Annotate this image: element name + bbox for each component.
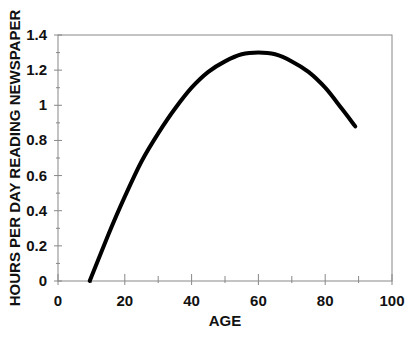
y-axis-tick-labels: 00.20.40.60.811.21.4: [26, 26, 48, 289]
y-tick-label: 1.4: [26, 26, 48, 43]
x-tick-label: 60: [250, 292, 267, 309]
plot-area: [58, 35, 392, 281]
y-tick-label: 0.4: [26, 202, 48, 219]
x-tick-label: 80: [317, 292, 334, 309]
x-axis-tick-labels: 020406080100: [54, 292, 405, 309]
y-tick-label: 1.2: [26, 61, 47, 78]
chart: 020406080100 00.20.40.60.811.21.4 AGE HO…: [0, 0, 410, 345]
x-tick-label: 0: [54, 292, 62, 309]
y-tick-label: 0.8: [26, 131, 47, 148]
y-tick-label: 0.6: [26, 167, 47, 184]
x-tick-label: 40: [183, 292, 200, 309]
y-axis-title: HOURS PER DAY READING NEWSPAPER: [6, 10, 23, 307]
y-tick-label: 0.2: [26, 237, 47, 254]
x-axis-title: AGE: [209, 312, 242, 329]
x-tick-label: 20: [116, 292, 133, 309]
x-tick-label: 100: [379, 292, 404, 309]
y-tick-label: 1: [39, 96, 47, 113]
y-tick-label: 0: [39, 272, 47, 289]
